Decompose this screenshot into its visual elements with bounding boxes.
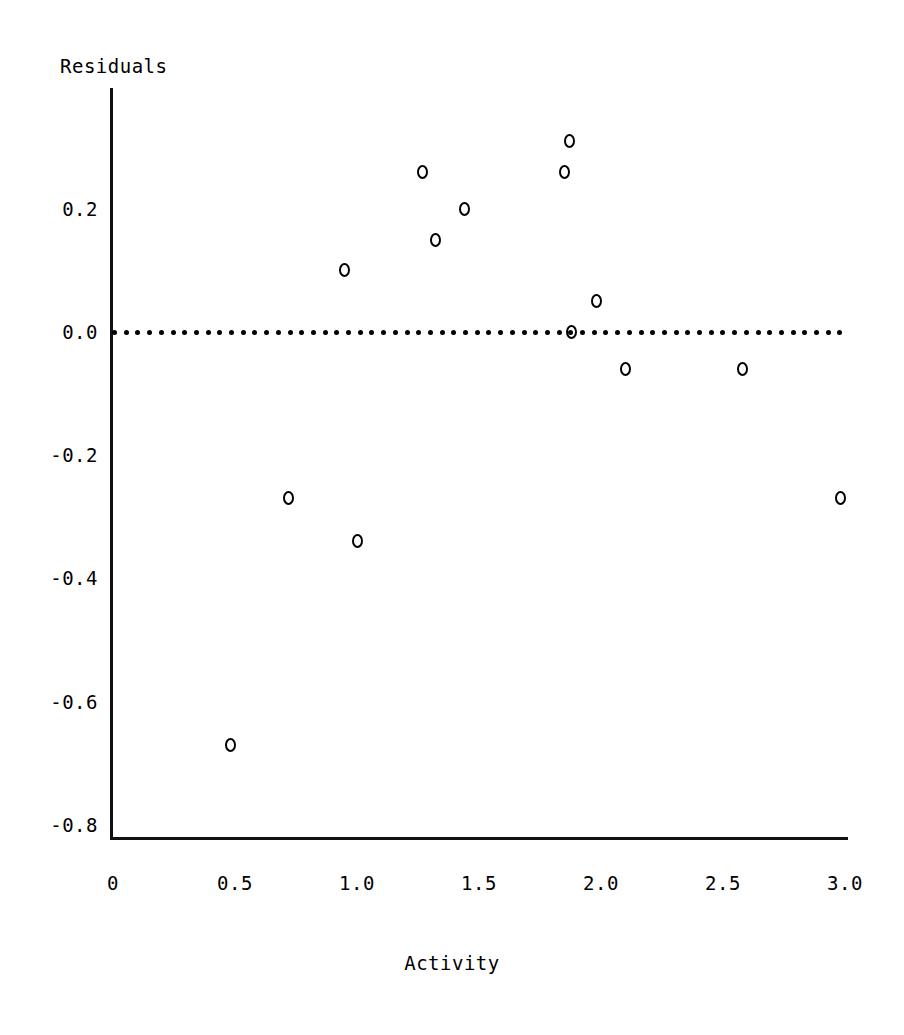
reference-line-dot [323, 330, 328, 335]
y-axis-title: Residuals [60, 55, 167, 77]
reference-line-dot [650, 330, 655, 335]
reference-line-dot [124, 330, 129, 335]
reference-line-dot [475, 330, 480, 335]
reference-line-dot [252, 330, 257, 335]
scatter-point-marker [339, 263, 350, 277]
reference-line-dot [545, 330, 550, 335]
reference-line-dot [826, 330, 831, 335]
y-axis-line [110, 88, 113, 840]
reference-line-dot [674, 330, 679, 335]
reference-line-dot [568, 330, 573, 335]
reference-line-dot [159, 330, 164, 335]
reference-line-dot [334, 330, 339, 335]
reference-line-dot [381, 330, 386, 335]
x-axis-line [110, 837, 848, 840]
reference-line-dot [451, 330, 456, 335]
reference-line-dot [171, 330, 176, 335]
x-tick-label: 2.5 [683, 872, 763, 894]
reference-line-dot [767, 330, 772, 335]
residuals-scatter-figure: Residuals 0.20.0-0.2-0.4-0.6-0.8 00.51.0… [0, 0, 904, 1035]
y-tick-label: 0.2 [30, 198, 98, 220]
reference-line-dot [416, 330, 421, 335]
scatter-point-marker [591, 294, 602, 308]
reference-line-dot [486, 330, 491, 335]
reference-line-dot [498, 330, 503, 335]
reference-line-dot [463, 330, 468, 335]
reference-line-dot [299, 330, 304, 335]
x-tick-label: 0 [73, 872, 153, 894]
reference-line-dot [428, 330, 433, 335]
reference-line-dot [405, 330, 410, 335]
reference-line-dot [522, 330, 527, 335]
y-tick-label: -0.8 [30, 814, 98, 836]
reference-line-dot [369, 330, 374, 335]
reference-line-dot [229, 330, 234, 335]
reference-line-dot [288, 330, 293, 335]
x-tick-label: 0.5 [195, 872, 275, 894]
reference-line-dot [756, 330, 761, 335]
x-tick-label: 3.0 [805, 872, 885, 894]
reference-line-dot [580, 330, 585, 335]
reference-line-dot [557, 330, 562, 335]
y-tick-label: 0.0 [30, 321, 98, 343]
reference-line-dot [112, 330, 117, 335]
reference-line-dot [346, 330, 351, 335]
reference-line-dot [393, 330, 398, 335]
scatter-point-marker [430, 233, 441, 247]
reference-line-dot [814, 330, 819, 335]
reference-line-dot [264, 330, 269, 335]
reference-line-dot [440, 330, 445, 335]
reference-line-dot [732, 330, 737, 335]
zero-reference-line [112, 330, 849, 335]
scatter-point-marker [835, 491, 846, 505]
scatter-point-marker [737, 362, 748, 376]
reference-line-dot [837, 330, 842, 335]
reference-line-dot [147, 330, 152, 335]
reference-line-dot [697, 330, 702, 335]
reference-line-dot [217, 330, 222, 335]
scatter-point-marker [564, 134, 575, 148]
scatter-point-marker [559, 165, 570, 179]
reference-line-dot [592, 330, 597, 335]
reference-line-dot [311, 330, 316, 335]
reference-line-dot [241, 330, 246, 335]
reference-line-dot [720, 330, 725, 335]
reference-line-dot [615, 330, 620, 335]
reference-line-dot [358, 330, 363, 335]
reference-line-dot [194, 330, 199, 335]
x-axis-title: Activity [0, 952, 904, 974]
reference-line-dot [802, 330, 807, 335]
x-tick-label: 1.5 [439, 872, 519, 894]
scatter-point-marker [459, 202, 470, 216]
y-tick-label: -0.4 [30, 567, 98, 589]
y-tick-label: -0.6 [30, 691, 98, 713]
reference-line-dot [791, 330, 796, 335]
reference-line-dot [685, 330, 690, 335]
scatter-point-marker [283, 491, 294, 505]
x-tick-label: 1.0 [317, 872, 397, 894]
reference-line-dot [639, 330, 644, 335]
reference-line-dot [182, 330, 187, 335]
reference-line-dot [533, 330, 538, 335]
reference-line-dot [603, 330, 608, 335]
scatter-point-marker [417, 165, 428, 179]
x-tick-label: 2.0 [561, 872, 641, 894]
reference-line-dot [627, 330, 632, 335]
reference-line-dot [662, 330, 667, 335]
scatter-point-marker [225, 738, 236, 752]
reference-line-dot [276, 330, 281, 335]
scatter-point-marker [352, 534, 363, 548]
reference-line-dot [709, 330, 714, 335]
y-tick-label: -0.2 [30, 444, 98, 466]
reference-line-dot [779, 330, 784, 335]
scatter-point-marker [620, 362, 631, 376]
reference-line-dot [135, 330, 140, 335]
reference-line-dot [206, 330, 211, 335]
reference-line-dot [744, 330, 749, 335]
reference-line-dot [510, 330, 515, 335]
